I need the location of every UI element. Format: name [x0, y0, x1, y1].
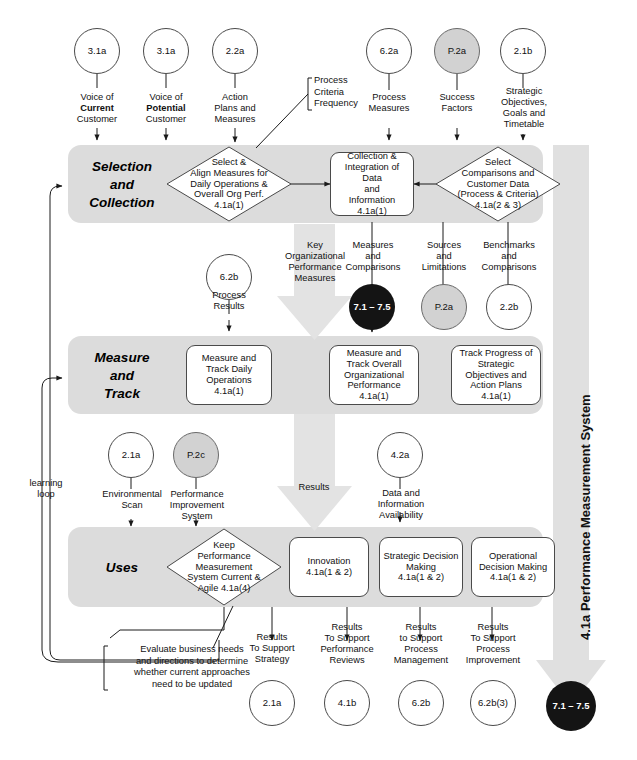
- circle-code: P.2a: [435, 301, 453, 312]
- mid2-label-performance-improvement-system: Performance Improvement System: [159, 489, 235, 522]
- circle-code: 3.1a: [157, 45, 176, 56]
- node-innovation[interactable]: Innovation 4.1a(1 & 2): [289, 537, 369, 597]
- bottom-label-results-process-improvement: Results To Support Process Improvement: [456, 622, 530, 667]
- system-arrow-shape: [536, 145, 606, 706]
- node-measure-track-daily[interactable]: Measure and Track Daily Operations 4.1a(…: [186, 345, 272, 405]
- band-label-selection-collection: Selection and Collection: [78, 158, 166, 213]
- node-label: Select & Align Measures for Daily Operat…: [167, 147, 291, 221]
- node-label: Measure and Track Overall Organizational…: [344, 348, 404, 403]
- node-label: Collection & Integration of Data and Inf…: [334, 151, 410, 217]
- bottom-circle-2-1a[interactable]: 2.1a: [249, 680, 295, 726]
- label-benchmarks-and-comparisons: Benchmarks and Comparisons: [472, 240, 546, 273]
- label-learning-loop: learning loop: [18, 478, 74, 500]
- label-sources-and-limitations: Sources and Limitations: [410, 240, 478, 273]
- circle-code: 2.1a: [122, 449, 141, 460]
- node-label: Track Progress of Strategic Objectives a…: [459, 348, 532, 403]
- bottom-label-results-process-management: Results to Support Process Management: [384, 622, 458, 667]
- input-circle-3-1a-potential[interactable]: 3.1a: [143, 28, 189, 74]
- output-circle-7-1-7-5-measures[interactable]: 7.1 – 7.5: [349, 284, 395, 330]
- circle-code: 6.2a: [380, 45, 399, 56]
- bottom-label-results-performance-reviews: Results To Support Performance Reviews: [311, 622, 383, 667]
- circle-code: 4.1b: [338, 697, 357, 708]
- circle-code: 2.1a: [263, 697, 282, 708]
- circle-code: P.2a: [448, 45, 466, 56]
- node-label: Keep Performance Measurement System Curr…: [167, 529, 281, 605]
- leader-keep-pms-to-evaluate: [213, 606, 233, 648]
- circle-code: 2.2a: [226, 45, 245, 56]
- input-label-voice-potential: Voice of Potential Customer: [131, 92, 201, 125]
- circle-code: 4.2a: [391, 449, 410, 460]
- band-label-measure-track: Measure and Track: [78, 349, 166, 404]
- bottom-circle-4-1b[interactable]: 4.1b: [324, 680, 370, 726]
- input-label-success-factors: Success Factors: [421, 92, 493, 114]
- node-operational-decision-making[interactable]: Operational Decision Making 4.1a(1 & 2): [471, 537, 555, 597]
- input-circle-2-1b[interactable]: 2.1b: [500, 28, 546, 74]
- input-label-action-plans: Action Plans and Measures: [199, 92, 271, 125]
- input-circle-p-2a[interactable]: P.2a: [434, 28, 480, 74]
- diagram-canvas: 3.1a Voice of Current Customer 3.1a Voic…: [0, 0, 637, 760]
- node-label: Select Comparisons and Customer Data (Pr…: [436, 147, 560, 221]
- bottom-circle-6-2b[interactable]: 6.2b: [398, 680, 444, 726]
- node-label: Operational Decision Making 4.1a(1 & 2): [479, 551, 547, 584]
- mid2-label-data-information-availability: Data and Information Availability: [363, 488, 439, 521]
- circle-code: 2.1b: [514, 45, 533, 56]
- node-keep-pms-current[interactable]: Keep Performance Measurement System Curr…: [167, 529, 281, 605]
- label-results-flow: Results: [289, 482, 339, 493]
- output-circle-2-2b-benchmarks[interactable]: 2.2b: [486, 284, 532, 330]
- bottom-circle-7-1-7-5-system[interactable]: 7.1 – 7.5: [546, 681, 596, 731]
- circle-code: 7.1 – 7.5: [354, 301, 391, 312]
- node-label: Measure and Track Daily Operations 4.1a(…: [202, 353, 256, 397]
- label-performance-measurement-system: 4.1a Performance Measurement System: [578, 394, 593, 640]
- node-strategic-decision-making[interactable]: Strategic Decision Making 4.1a(1 & 2): [379, 537, 463, 597]
- bottom-circle-6-2b-3[interactable]: 6.2b(3): [470, 680, 516, 726]
- input-circle-6-2a[interactable]: 6.2a: [366, 28, 412, 74]
- node-select-align-measures[interactable]: Select & Align Measures for Daily Operat…: [167, 147, 291, 221]
- band-label-uses: Uses: [78, 559, 166, 577]
- output-circle-p-2a-sources[interactable]: P.2a: [421, 284, 467, 330]
- mid2-input-circle-2-1a[interactable]: 2.1a: [108, 432, 154, 478]
- circle-code: 6.2b(3): [478, 697, 508, 708]
- node-label: Strategic Decision Making 4.1a(1 & 2): [384, 551, 459, 584]
- circle-code: 6.2b: [412, 697, 431, 708]
- input-label-voice-current: Voice of Current Customer: [62, 92, 132, 125]
- circle-code: 6.2b: [220, 271, 239, 282]
- node-track-progress-strategic[interactable]: Track Progress of Strategic Objectives a…: [451, 345, 541, 405]
- mid2-input-circle-p-2c[interactable]: P.2c: [173, 432, 219, 478]
- label-measures-and-comparisons: Measures and Comparisons: [337, 240, 409, 273]
- input-circle-2-2a[interactable]: 2.2a: [212, 28, 258, 74]
- node-measure-track-overall[interactable]: Measure and Track Overall Organizational…: [329, 345, 419, 405]
- input-label-strategic-objectives: Strategic Objectives, Goals and Timetabl…: [485, 86, 563, 131]
- callout-process-criteria-frequency: Process Criteria Frequency: [314, 75, 376, 110]
- mid2-input-circle-4-2a[interactable]: 4.2a: [377, 432, 423, 478]
- input-circle-3-1a-current[interactable]: 3.1a: [74, 28, 120, 74]
- circle-code: 2.2b: [500, 301, 519, 312]
- results-flow-arrow: [277, 414, 352, 531]
- mid-input-label-process-results: Process Results: [194, 290, 264, 312]
- circle-code: 7.1 – 7.5: [553, 700, 590, 711]
- circle-code: 3.1a: [88, 45, 107, 56]
- node-collection-integration[interactable]: Collection & Integration of Data and Inf…: [330, 152, 414, 216]
- circle-code: P.2c: [187, 449, 205, 460]
- node-label: Innovation 4.1a(1 & 2): [306, 556, 352, 578]
- node-select-comparisons[interactable]: Select Comparisons and Customer Data (Pr…: [436, 147, 560, 221]
- bottom-label-results-strategy: Results To Support Strategy: [238, 632, 306, 665]
